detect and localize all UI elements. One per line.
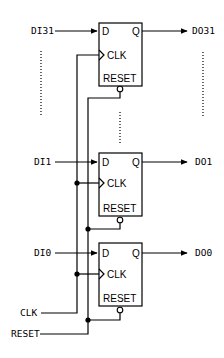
flipflop-1: DI1 D Q CLK RESET DO1 xyxy=(34,153,212,223)
pin-d: D xyxy=(102,26,109,37)
flipflop-31: DI31 D Q CLK RESET DO31 xyxy=(31,23,215,92)
input-label-di1: DI1 xyxy=(34,156,51,167)
clk-junction-dot xyxy=(74,180,79,185)
inversion-bubble-icon xyxy=(117,217,123,223)
pin-q: Q xyxy=(132,157,140,168)
flipflop-0: DI0 D Q CLK RESET DO0 xyxy=(34,243,212,313)
clk-input-label: CLK xyxy=(20,307,37,318)
reset-junction-dot xyxy=(85,317,90,322)
clk-bus xyxy=(41,55,99,313)
reset-junction-dot xyxy=(85,226,90,231)
output-label-do31: DO31 xyxy=(192,25,215,36)
pin-d: D xyxy=(102,157,109,168)
inversion-bubble-icon xyxy=(117,307,123,313)
pin-reset: RESET xyxy=(103,73,136,84)
reset-input-label: RESET xyxy=(11,328,40,339)
clk-junction-dot xyxy=(74,271,79,276)
inversion-bubble-icon xyxy=(117,86,123,92)
output-label-do1: DO1 xyxy=(195,156,212,167)
pin-q: Q xyxy=(132,26,140,37)
pin-q: Q xyxy=(132,248,140,259)
pin-clk: CLK xyxy=(107,269,127,280)
pin-reset: RESET xyxy=(103,293,136,304)
input-label-di0: DI0 xyxy=(34,247,51,258)
output-label-do0: DO0 xyxy=(195,247,212,258)
pin-clk: CLK xyxy=(107,50,127,61)
pin-reset: RESET xyxy=(103,203,136,214)
pin-clk: CLK xyxy=(107,178,127,189)
register-schematic: DI31 D Q CLK RESET DO31 DI1 D Q CLK RESE… xyxy=(0,0,224,358)
pin-d: D xyxy=(102,248,109,259)
input-label-di31: DI31 xyxy=(31,25,54,36)
